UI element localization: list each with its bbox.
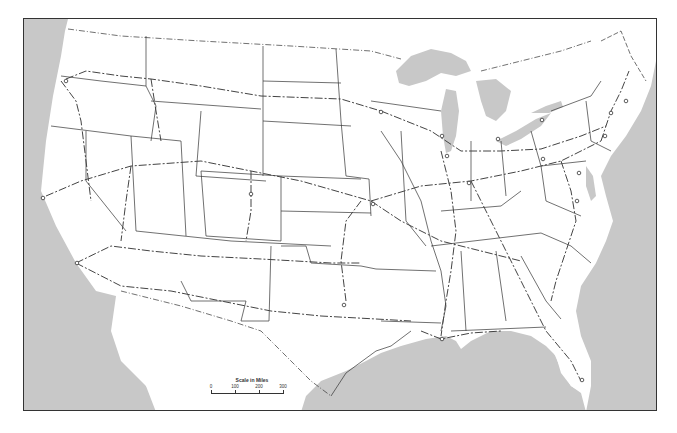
scale-tick [235,390,236,394]
lake-superior [396,49,471,86]
scale-tick-label: 200 [255,384,263,389]
lake-ontario [531,101,563,113]
us-map [24,19,657,411]
chesapeake-bay [586,166,596,201]
scale-tick-label: 100 [231,384,239,389]
scale-title: Scale in Miles [207,377,297,383]
scale-tick [211,390,212,394]
scale-tick [259,390,260,394]
scale-legend: Scale in Miles 0 100 200 300 [207,377,297,401]
scale-tick [283,390,284,394]
lake-huron [476,79,511,121]
scale-tick-label: 0 [210,384,213,389]
scale-tick-label: 300 [279,384,287,389]
gulf-of-mexico [301,331,586,411]
map-frame [23,18,657,411]
atlantic-ocean [576,19,657,411]
scale-bar [211,393,283,394]
